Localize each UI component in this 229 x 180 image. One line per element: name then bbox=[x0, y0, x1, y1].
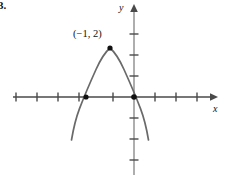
parabola-curve bbox=[72, 48, 149, 140]
vertex-point bbox=[107, 45, 112, 50]
y-axis-label: y bbox=[119, 2, 123, 13]
origin-intercept-point bbox=[131, 94, 137, 100]
x-axis-label: x bbox=[213, 103, 217, 114]
vertex-point-label: (−1, 2) bbox=[73, 28, 102, 39]
parabola-figure: 3. bbox=[0, 0, 229, 180]
coordinate-plane bbox=[0, 0, 229, 180]
x-intercept-left-point bbox=[83, 94, 88, 99]
y-axis-arrowhead bbox=[130, 4, 138, 12]
x-axis-arrowhead bbox=[210, 93, 218, 101]
